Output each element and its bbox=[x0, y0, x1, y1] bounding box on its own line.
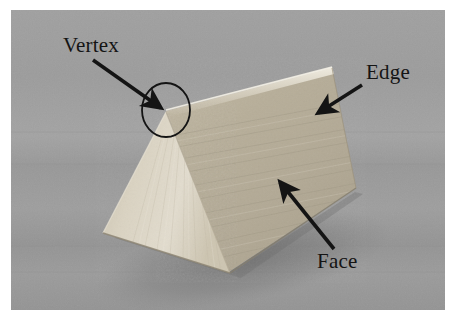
figure-root: Vertex Edge Face bbox=[0, 0, 460, 324]
vertex-label: Vertex bbox=[63, 33, 119, 57]
face-label: Face bbox=[317, 249, 357, 273]
photograph-canvas: Vertex Edge Face bbox=[11, 10, 445, 310]
edge-label: Edge bbox=[366, 60, 410, 84]
photograph-plate: Vertex Edge Face bbox=[11, 10, 445, 310]
